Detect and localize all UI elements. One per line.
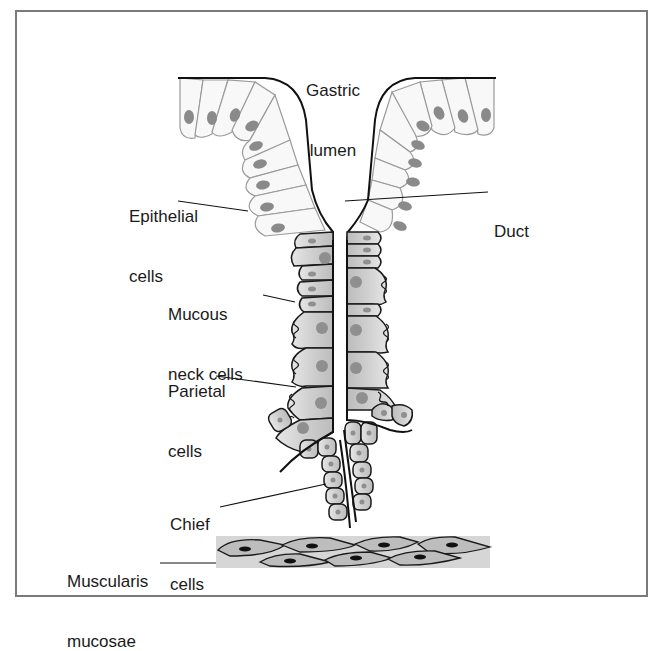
label-chief-cells-line1: Chief	[170, 515, 210, 535]
label-muscularis-mucosae-line1: Muscularis	[67, 572, 148, 592]
label-parietal-cells-line1: Parietal	[168, 382, 226, 402]
label-muscularis-mucosae: Muscularis mucosae	[67, 532, 148, 651]
leader-chief	[220, 484, 326, 507]
label-muscularis-mucosae-line2: mucosae	[67, 632, 148, 651]
label-parietal-cells: Parietal cells	[168, 342, 226, 482]
label-chief-cells: Chief cells	[170, 475, 210, 615]
label-gastric-lumen-line1: Gastric	[298, 81, 368, 101]
label-parietal-cells-line2: cells	[168, 442, 226, 462]
label-duct-line1: Duct	[494, 222, 529, 242]
leader-mucous-neck	[263, 295, 295, 302]
label-epithelial-cells-line1: Epithelial	[129, 207, 198, 227]
gland-lumen	[335, 240, 345, 438]
leader-duct	[345, 192, 488, 201]
label-gastric-lumen-line2: lumen	[298, 141, 368, 161]
label-chief-cells-line2: cells	[170, 575, 210, 595]
label-gastric-lumen: Gastric lumen	[298, 41, 368, 181]
label-mucous-neck-cells-line1: Mucous	[168, 305, 243, 325]
label-duct: Duct	[494, 182, 529, 262]
